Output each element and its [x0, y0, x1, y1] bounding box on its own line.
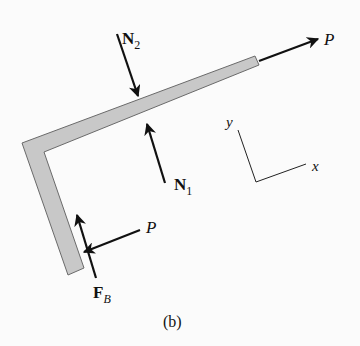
free-body-diagram: N2 N1 P y x FB P (b): [0, 0, 360, 346]
force-p-top-arrow: [259, 39, 318, 61]
label-n1: N1: [174, 175, 192, 198]
label-n2: N2: [122, 29, 140, 52]
label-p-bottom: P: [145, 218, 156, 237]
bent-member: [22, 56, 259, 275]
label-p-top: P: [323, 30, 334, 49]
label-axis-x: x: [311, 158, 319, 174]
force-p-bottom-arrow: [84, 230, 140, 252]
label-axis-y: y: [224, 114, 233, 130]
figure-caption: (b): [163, 313, 182, 331]
axis-y-x: [238, 130, 306, 182]
label-fb: FB: [93, 283, 111, 306]
force-n1-arrow: [147, 124, 165, 183]
